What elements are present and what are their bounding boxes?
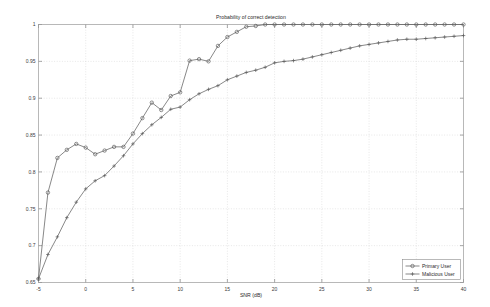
- y-tick-label: 0.75: [26, 206, 36, 212]
- y-tick-label: 1: [33, 21, 36, 27]
- x-axis-label: SNR (dB): [240, 292, 262, 298]
- x-tick-label: 15: [225, 286, 231, 292]
- chart-legend[interactable]: Primary UserMalicious User: [403, 260, 461, 280]
- x-tick-label: 20: [272, 286, 278, 292]
- x-tick-label: 5: [132, 286, 135, 292]
- x-tick-label: -5: [36, 286, 41, 292]
- y-tick-label: 0.65: [26, 279, 36, 285]
- y-tick-label: 0.85: [26, 132, 36, 138]
- y-tick-label: 0.9: [29, 95, 36, 101]
- legend-label: Primary User: [422, 263, 452, 269]
- legend-label: Malicious User: [422, 271, 455, 277]
- x-tick-label: 10: [177, 286, 183, 292]
- figure-canvas: -50510152025303540 0.650.70.750.80.850.9…: [0, 0, 490, 307]
- x-tick-label: 0: [84, 286, 87, 292]
- x-tick-label: 35: [413, 286, 419, 292]
- x-tick-label: 30: [366, 286, 372, 292]
- y-tick-label: 0.95: [26, 58, 36, 64]
- x-tick-label: 25: [319, 286, 325, 292]
- y-tick-label: 0.8: [29, 169, 36, 175]
- y-tick-label: 0.7: [29, 242, 36, 248]
- chart-title: Probability of correct detection: [216, 14, 286, 20]
- chart-plot: -50510152025303540 0.650.70.750.80.850.9…: [0, 0, 490, 307]
- x-tick-label: 40: [461, 286, 467, 292]
